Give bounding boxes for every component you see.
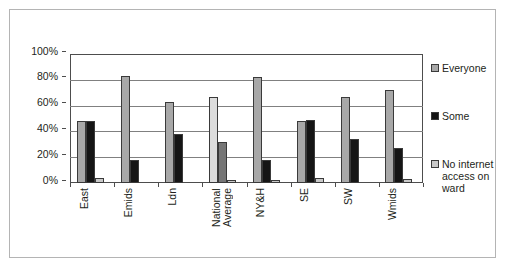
chart-panel: 100% 80% 60% 40% 20% 0% EastEmidsLdnNa [9,9,496,258]
chart-figure: 100% 80% 60% 40% 20% 0% EastEmidsLdnNa [0,0,513,275]
legend-label: Some [442,110,504,122]
y-tick-label-80: 80% [37,71,58,82]
bar-group [385,54,412,183]
y-tick-mark-40 [62,128,66,129]
bar [350,139,359,183]
x-axis-label: Ldn [167,188,178,206]
x-axis-label: Emids [123,188,134,217]
x-axis-label: East [79,188,90,209]
bar [209,97,218,183]
x-tick-mark [335,183,336,187]
x-tick-mark [379,183,380,187]
bar [86,121,95,183]
x-axis-label-line: SE [298,188,310,202]
x-axis-label: SW [343,188,354,205]
bar [253,77,262,183]
bar [306,120,315,183]
x-axis-label-line: East [78,188,90,209]
x-axis-label: NationalAverage [211,188,233,227]
x-axis-label: NY&H [255,188,266,217]
bar [130,160,139,183]
x-axis-label: Wmids [387,188,398,220]
bar [121,76,130,183]
x-tick-mark [247,183,248,187]
bar-group [165,54,192,183]
y-tick-mark-100 [62,51,66,52]
x-axis-label-line: Ldn [166,188,178,206]
y-tick-mark-0 [62,180,66,181]
bar [262,160,271,183]
x-axis-label-line: SW [342,188,354,205]
legend-label: No internet access on ward [442,158,504,194]
y-tick-label-60: 60% [37,97,58,108]
x-axis: EastEmidsLdnNationalAverageNY&HSESWWmids [70,188,423,250]
x-tick-mark [114,183,115,187]
bar-group [77,54,104,183]
plot-area [70,54,423,183]
x-tick-mark [158,183,159,187]
bar [165,102,174,183]
x-tick-mark [423,183,424,187]
legend-swatch-icon [431,112,439,120]
x-tick-mark [202,183,203,187]
y-tick-label-0: 0% [43,175,58,186]
legend-label: Everyone [442,62,504,74]
y-tick-label-20: 20% [37,149,58,160]
legend-swatch-icon [431,160,439,168]
bar [385,90,394,183]
bar [394,148,403,183]
bar [77,121,86,183]
bar-group [253,54,280,183]
bar-group [209,54,236,183]
bar [174,134,183,183]
x-axis-label-line: NY&H [254,188,266,217]
x-axis-label-line: Average [222,188,233,227]
y-tick-label-100: 100% [31,46,58,57]
bar-group [297,54,324,183]
y-tick-mark-80 [62,76,66,77]
x-axis-label: SE [299,188,310,202]
x-tick-mark [70,183,71,187]
legend-swatch-icon [431,64,439,72]
y-tick-label-40: 40% [37,123,58,134]
bar-group [121,54,148,183]
bar [341,97,350,183]
x-axis-label-line: Wmids [386,188,398,220]
y-axis: 100% 80% 60% 40% 20% 0% [10,46,66,191]
bar [297,121,306,183]
bar [218,142,227,183]
x-tick-mark [291,183,292,187]
x-axis-label-line: Emids [122,188,134,217]
y-tick-mark-60 [62,102,66,103]
bar-group [341,54,368,183]
y-tick-mark-20 [62,154,66,155]
